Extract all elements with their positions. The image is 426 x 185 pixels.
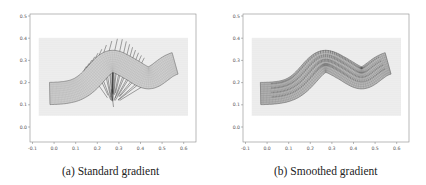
x-tick-label: 0.5 — [158, 146, 165, 151]
caption-b: (b) Smoothed gradient — [274, 165, 377, 177]
y-tick-label: 0.3 — [20, 58, 27, 63]
y-tick-label: 0.1 — [20, 102, 27, 107]
x-tick-label: 0.2 — [307, 146, 314, 151]
x-tick-label: -0.1 — [241, 146, 250, 151]
x-tick-label: 0.0 — [50, 146, 57, 151]
y-tick-label: 0.2 — [20, 80, 27, 85]
x-tick-label: 0.1 — [285, 146, 292, 151]
y-tick-label: 0.0 — [233, 125, 240, 130]
x-tick-label: 0.5 — [371, 146, 378, 151]
x-tick-label: 0.3 — [328, 146, 335, 151]
x-tick-label: 0.2 — [94, 146, 101, 151]
y-tick-label: 0.5 — [20, 14, 27, 19]
y-tick-label: 0.1 — [233, 102, 240, 107]
x-tick-label: 0.0 — [263, 146, 270, 151]
y-tick-label: 0.0 — [20, 125, 27, 130]
panel-a: -0.10.00.10.20.30.40.50.60.00.10.20.30.4… — [0, 0, 213, 185]
plot-standard-gradient: -0.10.00.10.20.30.40.50.60.00.10.20.30.4… — [0, 0, 213, 160]
y-tick-label: 0.5 — [233, 14, 240, 19]
plot-smoothed-gradient: -0.10.00.10.20.30.40.50.60.00.10.20.30.4… — [213, 0, 426, 160]
y-tick-label: 0.4 — [233, 36, 240, 41]
x-tick-label: 0.6 — [393, 146, 400, 151]
caption-a: (a) Standard gradient — [62, 165, 159, 177]
x-tick-label: 0.3 — [115, 146, 122, 151]
x-tick-label: 0.6 — [180, 146, 187, 151]
axes: -0.10.00.10.20.30.40.50.60.00.10.20.30.4… — [233, 14, 409, 151]
x-tick-label: 0.4 — [350, 146, 357, 151]
y-tick-label: 0.3 — [233, 58, 240, 63]
axes: -0.10.00.10.20.30.40.50.60.00.10.20.30.4… — [20, 14, 196, 151]
panel-b: -0.10.00.10.20.30.40.50.60.00.10.20.30.4… — [213, 0, 426, 185]
x-tick-label: 0.4 — [137, 146, 144, 151]
x-tick-label: 0.1 — [72, 146, 79, 151]
x-tick-label: -0.1 — [28, 146, 37, 151]
y-tick-label: 0.4 — [20, 36, 27, 41]
y-tick-label: 0.2 — [233, 80, 240, 85]
